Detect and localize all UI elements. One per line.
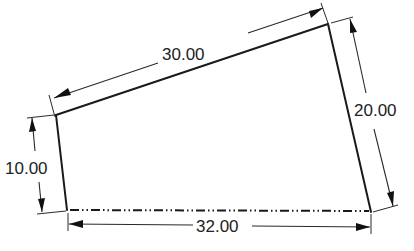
bottom-dim-arrowhead-right-icon xyxy=(356,223,370,231)
top-dim-label: 30.00 xyxy=(162,45,205,64)
bottom-dim-line-right xyxy=(252,226,370,227)
right-dim-arrowhead-top-icon xyxy=(350,19,357,33)
top-dim-arrowhead-right-icon xyxy=(309,8,323,18)
top-dim-extension-left xyxy=(49,95,55,117)
bottom-dim-arrowhead-left-icon xyxy=(69,220,83,228)
right-dim-extension-bottom xyxy=(373,205,398,212)
left-edge xyxy=(56,115,67,210)
right-dim-arrowhead-bottom-icon xyxy=(387,191,394,206)
bottom-dimension: 32.00 xyxy=(68,213,371,236)
bottom-dim-label: 32.00 xyxy=(196,217,239,236)
right-dim-label: 20.00 xyxy=(354,101,397,120)
left-dim-arrowhead-top-icon xyxy=(29,118,36,132)
top-dimension: 30.00 xyxy=(49,3,329,117)
bottom-edge-dash-dot xyxy=(70,210,369,211)
top-dim-extension-right xyxy=(321,3,329,26)
dimensioned-quadrilateral-diagram: 30.00 20.00 10.00 32.00 xyxy=(0,0,414,251)
left-dim-arrowhead-bottom-icon xyxy=(38,198,45,212)
top-dim-arrowhead-left-icon xyxy=(54,88,71,98)
shape-outline xyxy=(56,24,371,212)
left-dim-label: 10.00 xyxy=(5,159,48,178)
top-edge xyxy=(56,24,328,115)
left-dim-extension-top xyxy=(27,115,54,118)
bottom-dim-line-left xyxy=(69,224,193,225)
left-dim-extension-bottom xyxy=(37,211,66,214)
